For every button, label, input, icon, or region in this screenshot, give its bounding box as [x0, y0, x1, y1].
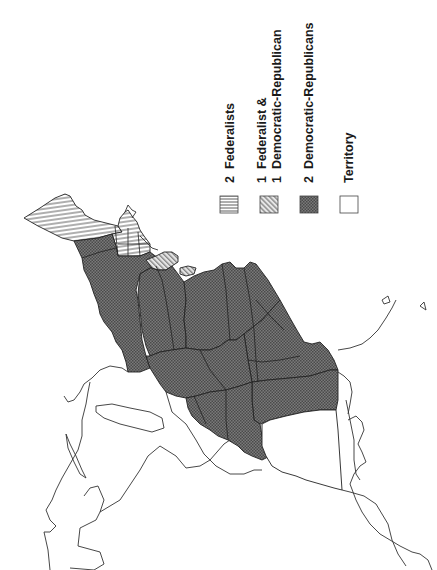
- legend: 2 Federalists 1 Federalist & 1 Democrati…: [220, 22, 358, 213]
- legend-label-mixed-1: Federalist &: [255, 97, 269, 169]
- small-islands: [382, 296, 426, 310]
- legend-label-mixed-2: Democratic-Republican: [270, 29, 284, 169]
- legend-count-federalists: 2: [223, 176, 237, 183]
- atlantic-coast-south: [338, 372, 352, 414]
- florida-peninsula: [348, 416, 432, 570]
- region-delaware-maryland-east: [180, 266, 196, 276]
- map-regions: [24, 194, 342, 490]
- lake-michigan-west: [44, 510, 56, 570]
- lake-michigan-east: [70, 486, 104, 570]
- lake-erie: [96, 404, 164, 432]
- legend-swatch-federalists: [220, 196, 238, 213]
- region-northern-new-england: [24, 194, 122, 241]
- map: 2 Federalists 1 Federalist & 1 Democrati…: [0, 0, 437, 570]
- georgian-bay: [66, 434, 86, 478]
- legend-swatch-democratic-republicans: [300, 196, 318, 213]
- legend-count-democratic-republicans: 2: [302, 176, 316, 183]
- lake-erie-shore: [64, 366, 128, 402]
- legend-label-democratic-republicans: Democratic-Republicans: [302, 22, 316, 169]
- legend-count-mixed-2: 1: [270, 176, 284, 183]
- region-southern-territory: [262, 410, 342, 490]
- legend-swatch-territory: [340, 196, 358, 213]
- legend-label-federalists: Federalists: [223, 103, 237, 169]
- legend-swatch-mixed: [260, 196, 278, 213]
- legend-count-mixed-1: 1: [255, 176, 269, 183]
- ohio-river-shore: [100, 440, 230, 512]
- florida-keys-coast: [338, 300, 396, 350]
- legend-label-territory: Territory: [342, 132, 356, 183]
